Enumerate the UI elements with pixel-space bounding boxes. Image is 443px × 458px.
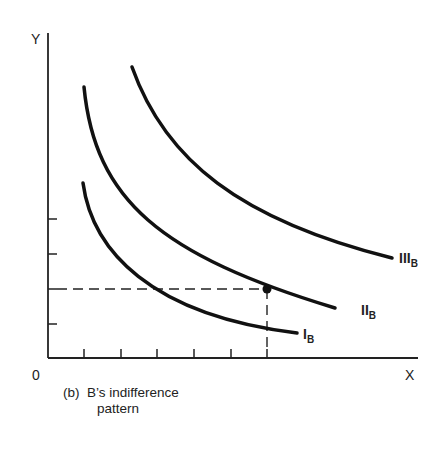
caption-prefix: (b): [63, 385, 80, 400]
equilibrium-point: [263, 285, 272, 294]
caption-line-2: pattern: [63, 401, 179, 417]
curve-label-III-B: IIIB: [399, 250, 418, 266]
y-axis-label: Y: [31, 31, 40, 47]
curve-label-II-B: IIB: [361, 302, 376, 318]
curve-III-B: [132, 67, 392, 258]
caption-line-1: B’s indifference: [87, 385, 179, 400]
curve-I-B: [83, 183, 297, 333]
x-ticks: [84, 349, 267, 358]
origin-label: 0: [32, 367, 40, 383]
figure-caption: (b) B’s indifference pattern: [63, 385, 179, 417]
curve-II-B: [84, 87, 335, 308]
y-ticks: [48, 219, 57, 324]
x-axis-label: X: [405, 367, 414, 383]
curve-label-I-B: IB: [303, 326, 314, 342]
